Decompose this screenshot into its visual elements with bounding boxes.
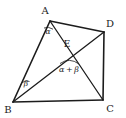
angle-label-beta: β (23, 79, 29, 88)
side-CD (103, 32, 104, 100)
diagonal-AC (50, 21, 103, 100)
vertex-label-B: B (4, 104, 11, 115)
angle-label-alpha-plus-beta: α + β (59, 65, 79, 74)
geometry-figure: A B C D E α β α + β (0, 0, 126, 118)
point-label-E: E (64, 39, 71, 49)
geometry-canvas: A B C D E α β α + β (0, 0, 126, 118)
side-BC (13, 100, 103, 102)
vertex-label-C: C (106, 103, 114, 114)
side-AB (13, 21, 50, 102)
vertex-label-A: A (40, 5, 49, 16)
angle-label-alpha: α (45, 27, 50, 36)
side-DA (50, 21, 104, 32)
vertex-label-D: D (106, 18, 114, 29)
